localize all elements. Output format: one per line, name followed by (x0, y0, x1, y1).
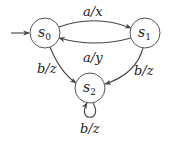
label-s2-s2: b/z (80, 121, 100, 136)
transition-s0-s1 (59, 21, 131, 28)
state-s1: s1 (130, 18, 160, 48)
label-s0-s1: a/x (83, 4, 103, 19)
state-s2: s2 (75, 73, 105, 103)
transition-s2-s2 (84, 103, 95, 117)
state-diagram: s0 s1 s2 a/x a/y b/z b/z b/z (0, 0, 170, 143)
label-s1-s2: b/z (134, 63, 154, 78)
transition-s1-s0 (59, 38, 131, 43)
label-s1-s0: a/y (83, 50, 103, 65)
label-s0-s2: b/z (37, 61, 57, 76)
state-s0: s0 (30, 18, 60, 48)
